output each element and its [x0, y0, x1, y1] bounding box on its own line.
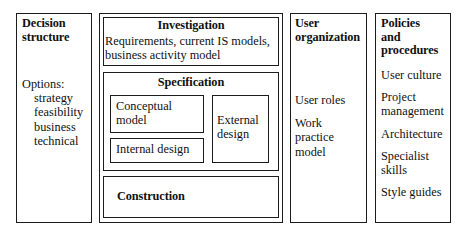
option-item-business: business: [34, 120, 92, 134]
decision-structure-title: Decision structure: [22, 17, 92, 44]
option-item-technical: technical: [34, 134, 92, 148]
external-design-label-line1: External: [217, 113, 273, 127]
policies-and-procedures-title: Policies and procedures: [381, 17, 451, 58]
user-organization-item-work-practice-model-line2: practice: [295, 130, 369, 144]
internal-design-label: Internal design: [116, 142, 206, 156]
policies-item-architecture: Architecture: [381, 127, 453, 141]
policies-and-procedures-title-line3: procedures: [381, 44, 451, 58]
policies-item-project-management-line1: Project: [381, 90, 453, 104]
policies-item-specialist-skills-line1: Specialist: [381, 149, 453, 163]
investigation-description: Requirements, current IS models, busines…: [105, 34, 281, 62]
user-organization-item-work-practice-model-line1: Work: [295, 116, 369, 130]
user-organization-item-user-roles: User roles: [295, 93, 369, 107]
option-item-feasibility: feasibility: [34, 105, 92, 119]
options-heading: Options:: [22, 77, 92, 91]
decision-structure-options: Options: strategy feasibility business t…: [22, 77, 92, 148]
decision-structure-title-line2: structure: [22, 31, 92, 45]
user-organization-title-line2: organization: [295, 31, 369, 45]
user-organization-item-work-practice-model: Work practice model: [295, 116, 369, 159]
option-item-strategy: strategy: [34, 91, 92, 105]
policies-item-user-culture-line1: User culture: [381, 68, 453, 82]
options-list: strategy feasibility business technical: [22, 91, 92, 148]
user-organization-item-work-practice-model-line3: model: [295, 145, 369, 159]
external-design-label-line2: design: [217, 127, 273, 141]
policies-items: User culture Project management Architec…: [381, 68, 453, 207]
policies-item-specialist-skills: Specialist skills: [381, 149, 453, 177]
investigation-description-line1: Requirements, current IS models,: [105, 34, 281, 48]
policies-item-style-guides-line1: Style guides: [381, 185, 453, 199]
specification-title: Specification: [103, 76, 279, 90]
conceptual-model-label-line2: model: [116, 113, 206, 127]
policies-item-user-culture: User culture: [381, 68, 453, 82]
policies-item-project-management-line2: management: [381, 104, 453, 118]
policies-and-procedures-title-line1: Policies: [381, 17, 451, 31]
decision-structure-title-line1: Decision: [22, 17, 92, 31]
policies-and-procedures-title-line2: and: [381, 31, 451, 45]
policies-item-style-guides: Style guides: [381, 185, 453, 199]
investigation-title: Investigation: [103, 19, 279, 33]
user-organization-items: User roles Work practice model: [295, 93, 369, 168]
external-design-label: External design: [217, 113, 273, 141]
construction-title: Construction: [117, 190, 267, 204]
conceptual-model-label: Conceptual model: [116, 99, 206, 127]
user-organization-title: User organization: [295, 17, 369, 44]
policies-item-architecture-line1: Architecture: [381, 127, 453, 141]
diagram-canvas: Decision structure Options: strategy fea…: [0, 0, 465, 244]
conceptual-model-label-line1: Conceptual: [116, 99, 206, 113]
policies-item-project-management: Project management: [381, 90, 453, 118]
policies-item-specialist-skills-line2: skills: [381, 163, 453, 177]
user-organization-title-line1: User: [295, 17, 369, 31]
user-organization-item-user-roles-line1: User roles: [295, 93, 369, 107]
investigation-description-line2: business activity model: [105, 48, 281, 62]
